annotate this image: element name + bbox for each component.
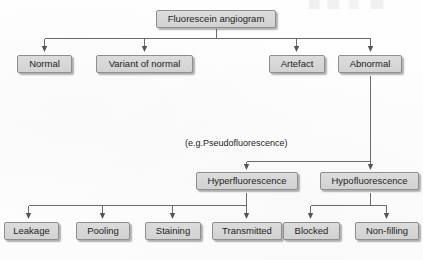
node-pooling[interactable]: Pooling bbox=[76, 222, 130, 240]
node-non-filling[interactable]: Non-filling bbox=[355, 222, 419, 240]
scan-artifact bbox=[309, 0, 417, 9]
node-fluorescein-angiogram[interactable]: Fluorescein angiogram bbox=[156, 10, 276, 28]
node-abnormal[interactable]: Abnormal bbox=[338, 55, 402, 73]
node-staining[interactable]: Staining bbox=[145, 222, 201, 240]
node-hypofluorescence[interactable]: Hypofluorescence bbox=[320, 172, 419, 190]
node-label: Blocked bbox=[295, 226, 329, 236]
paper-texture bbox=[0, 0, 423, 260]
flowchart-diagram: Fluorescein angiogram Normal Variant of … bbox=[0, 0, 423, 260]
node-label: Leakage bbox=[13, 226, 49, 236]
node-leakage[interactable]: Leakage bbox=[4, 222, 59, 240]
pseudofluorescence-annotation: (e.g.Pseudofluorescence) bbox=[185, 139, 288, 148]
node-label: Hyperfluorescence bbox=[207, 176, 286, 186]
node-label: Artefact bbox=[281, 59, 314, 69]
node-label: Hypofluorescence bbox=[331, 176, 407, 186]
node-artefact[interactable]: Artefact bbox=[269, 55, 325, 73]
node-label: Fluorescein angiogram bbox=[168, 14, 265, 24]
node-label: Non-filling bbox=[366, 226, 408, 236]
node-hyperfluorescence[interactable]: Hyperfluorescence bbox=[196, 172, 298, 190]
node-label: Pooling bbox=[87, 226, 119, 236]
node-label: Staining bbox=[156, 226, 190, 236]
node-transmitted[interactable]: Transmitted bbox=[212, 222, 282, 240]
node-normal[interactable]: Normal bbox=[17, 55, 72, 73]
connector-lines bbox=[0, 0, 423, 260]
node-variant-of-normal[interactable]: Variant of normal bbox=[96, 55, 193, 73]
node-label: Transmitted bbox=[222, 226, 272, 236]
node-label: Variant of normal bbox=[109, 59, 181, 69]
node-label: Normal bbox=[29, 59, 60, 69]
node-label: Abnormal bbox=[350, 59, 391, 69]
node-blocked[interactable]: Blocked bbox=[283, 222, 340, 240]
